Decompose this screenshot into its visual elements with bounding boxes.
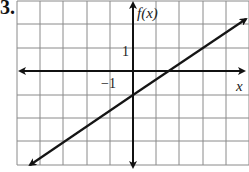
tick-label-x-neg1: −1: [101, 76, 116, 91]
coordinate-plane: f(x) x 1 −1: [0, 0, 249, 172]
y-axis-label: f(x): [137, 5, 158, 22]
function-line: [133, 19, 246, 95]
function-line-left: [30, 95, 133, 165]
x-axis-label: x: [235, 78, 243, 94]
tick-label-y-1: 1: [122, 44, 129, 59]
